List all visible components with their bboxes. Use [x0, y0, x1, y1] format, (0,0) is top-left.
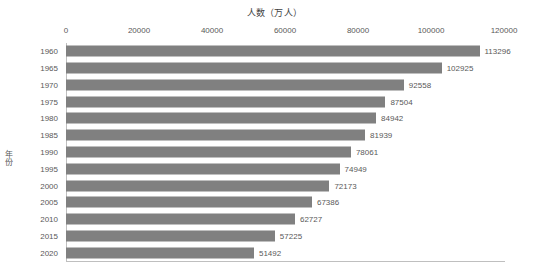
x-tick-label: 40000 — [201, 26, 223, 35]
bar-value-label: 84942 — [381, 114, 403, 123]
bar[interactable] — [66, 46, 480, 57]
bar-row: 201557225 — [0, 227, 541, 244]
bar-value-label: 81939 — [370, 131, 392, 140]
bar-chart: 人数（万人） 020000400006000080000100000120000… — [0, 0, 541, 272]
bar-value-label: 74949 — [345, 164, 367, 173]
bar-value-label: 67386 — [317, 198, 339, 207]
y-tick-label: 1980 — [0, 114, 58, 123]
bar-value-label: 51492 — [259, 248, 281, 257]
x-tick-label: 0 — [64, 26, 68, 35]
bar-row: 199078061 — [0, 144, 541, 161]
x-axis-line — [66, 261, 505, 262]
bar[interactable] — [66, 180, 329, 191]
y-tick-label: 2020 — [0, 248, 58, 257]
bar[interactable] — [66, 230, 275, 241]
y-tick-label: 2005 — [0, 198, 58, 207]
bar-row: 198084942 — [0, 110, 541, 127]
bar-row: 197587504 — [0, 93, 541, 110]
bar-row: 1965102925 — [0, 60, 541, 77]
bar-value-label: 62727 — [300, 215, 322, 224]
bar-row: 197092558 — [0, 77, 541, 94]
bar[interactable] — [66, 247, 254, 258]
bar-row: 202051492 — [0, 244, 541, 261]
y-tick-label: 1985 — [0, 131, 58, 140]
x-tick-label: 100000 — [418, 26, 445, 35]
bar-value-label: 78061 — [356, 147, 378, 156]
bar[interactable] — [66, 214, 295, 225]
chart-title-text: 人数（万人） — [247, 8, 302, 18]
bar-value-label: 113296 — [485, 47, 511, 56]
bar[interactable] — [66, 113, 376, 124]
bar[interactable] — [66, 130, 365, 141]
x-tick-label: 80000 — [347, 26, 369, 35]
bar-row: 200072173 — [0, 177, 541, 194]
bar-value-label: 102925 — [447, 64, 474, 73]
y-tick-label: 2015 — [0, 231, 58, 240]
bar[interactable] — [66, 63, 442, 74]
y-tick-label: 2000 — [0, 181, 58, 190]
bar-row: 199574949 — [0, 160, 541, 177]
bar[interactable] — [66, 163, 340, 174]
bar-row: 198581939 — [0, 127, 541, 144]
x-tick-label: 120000 — [491, 26, 518, 35]
bar[interactable] — [66, 146, 351, 157]
bar-value-label: 57225 — [280, 231, 302, 240]
bar[interactable] — [66, 197, 312, 208]
y-tick-label: 1970 — [0, 80, 58, 89]
bar[interactable] — [66, 79, 404, 90]
chart-title: 人数（万人） — [0, 6, 541, 19]
x-axis-tick-labels: 020000400006000080000100000120000 — [0, 26, 541, 38]
bar-value-label: 87504 — [390, 97, 412, 106]
y-tick-label: 1960 — [0, 47, 58, 56]
x-tick-label: 20000 — [128, 26, 150, 35]
bar-row: 1960113296 — [0, 43, 541, 60]
y-tick-label: 1990 — [0, 147, 58, 156]
bar-value-label: 92558 — [409, 80, 431, 89]
bar-row: 201062727 — [0, 211, 541, 228]
y-tick-label: 1965 — [0, 64, 58, 73]
x-tick-label: 60000 — [274, 26, 296, 35]
y-tick-label: 1995 — [0, 164, 58, 173]
bar[interactable] — [66, 96, 385, 107]
y-tick-label: 2010 — [0, 215, 58, 224]
bar-row: 200567386 — [0, 194, 541, 211]
y-tick-label: 1975 — [0, 97, 58, 106]
bar-value-label: 72173 — [334, 181, 356, 190]
